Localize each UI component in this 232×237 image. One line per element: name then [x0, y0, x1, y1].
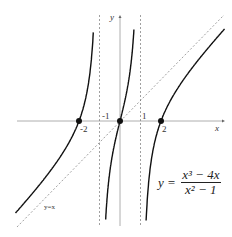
- tick-label-1: 1: [142, 111, 147, 121]
- tick-label-2: 2: [162, 124, 167, 134]
- tick-label-minus-1: -1: [102, 111, 110, 121]
- equation-label: y = x³ − 4x x² − 1: [158, 168, 221, 197]
- equation-numerator: x³ − 4x: [182, 168, 219, 182]
- x-axis-label: x: [214, 123, 219, 133]
- asymptote-label: y=x: [44, 203, 55, 211]
- curve-left-branch: [16, 32, 94, 213]
- tick-label-minus-2: -2: [80, 124, 88, 134]
- zero-point-0: [117, 118, 123, 124]
- graph: -2 -1 1 2 x y y=x: [0, 0, 232, 237]
- equation-denominator: x² − 1: [185, 183, 216, 197]
- y-axis-label: y: [109, 12, 114, 22]
- y-axis-arrow-icon: [119, 15, 122, 18]
- equation-lhs: y =: [158, 175, 176, 191]
- x-axis-arrow-icon: [222, 120, 225, 123]
